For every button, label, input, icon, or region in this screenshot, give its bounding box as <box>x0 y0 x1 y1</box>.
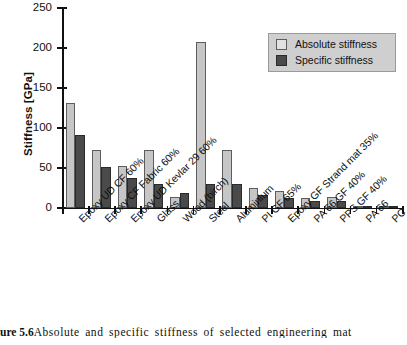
y-tick-label-0: 0 <box>6 201 52 213</box>
y-tick-label-200: 200 <box>6 41 52 53</box>
bar-group <box>62 8 88 208</box>
bar-group <box>193 8 219 208</box>
figure-caption-number: ure 5.6 <box>0 326 34 338</box>
y-tick-label-100: 100 <box>6 121 52 133</box>
chart-legend: Absolute stiffness Specific stiffness <box>268 33 396 72</box>
y-tick-label-250: 250 <box>6 1 52 13</box>
figure-caption: ure 5.6Absolute and specific stiffness o… <box>0 326 407 338</box>
bar-group <box>88 8 114 208</box>
bar <box>66 103 76 208</box>
y-tick-label-150: 150 <box>6 81 52 93</box>
bar <box>232 184 242 208</box>
figure-caption-text: Absolute and specific stiffness of selec… <box>34 326 352 338</box>
legend-label-specific-stiffness: Specific stiffness <box>295 54 373 66</box>
figure-container: Stiffness [GPa] 050100150200250 Epoxy UD… <box>0 0 407 345</box>
legend-swatch-specific-stiffness <box>276 55 287 66</box>
legend-label-absolute-stiffness: Absolute stiffness <box>295 38 377 50</box>
bar <box>196 42 206 208</box>
y-tick-label-50: 50 <box>6 161 52 173</box>
legend-swatch-absolute-stiffness <box>276 39 287 50</box>
bar <box>75 135 85 208</box>
